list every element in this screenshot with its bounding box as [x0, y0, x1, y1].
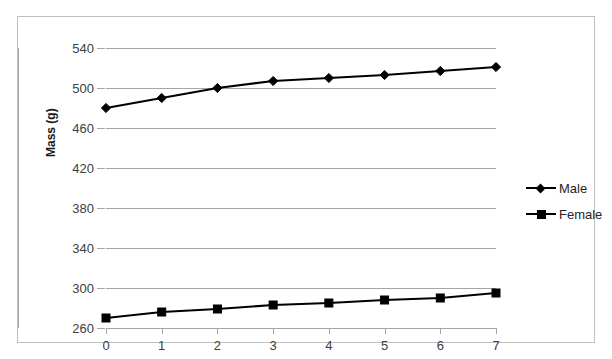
data-point-female — [492, 289, 500, 297]
data-point-male — [101, 103, 110, 112]
x-axis-label: 2 — [214, 338, 221, 353]
y-axis-title: Mass (g) — [44, 108, 58, 157]
data-point-female — [158, 308, 166, 316]
y-axis-tick — [97, 168, 105, 169]
y-axis-label: 340 — [72, 241, 94, 256]
y-axis-label: 420 — [72, 161, 94, 176]
y-axis-label: 460 — [72, 121, 94, 136]
y-axis-tick — [97, 208, 105, 209]
y-axis-tick — [97, 128, 105, 129]
y-axis-line — [18, 48, 19, 328]
legend-label: Male — [559, 181, 587, 196]
data-point-male — [213, 83, 222, 92]
y-axis-tick — [97, 48, 105, 49]
data-point-male — [324, 73, 333, 82]
y-axis-tick — [97, 288, 105, 289]
y-axis-tick — [97, 328, 105, 329]
data-point-female — [213, 305, 221, 313]
x-axis-label: 7 — [492, 338, 499, 353]
x-axis-label: 3 — [270, 338, 277, 353]
x-axis-label: 6 — [437, 338, 444, 353]
x-axis-label: 1 — [158, 338, 165, 353]
x-axis-label: 4 — [325, 338, 332, 353]
x-axis-tick — [329, 328, 330, 334]
x-axis-tick — [273, 328, 274, 334]
x-axis-tick — [162, 328, 163, 334]
x-axis-line — [106, 328, 496, 329]
data-point-male — [269, 76, 278, 85]
data-point-male — [491, 62, 500, 71]
x-axis-label: 5 — [381, 338, 388, 353]
x-axis-tick — [106, 328, 107, 334]
y-axis-label: 260 — [72, 321, 94, 336]
diamond-marker-icon — [526, 182, 556, 194]
y-axis-label: 380 — [72, 201, 94, 216]
data-point-male — [157, 93, 166, 102]
x-axis-tick — [496, 328, 497, 334]
y-axis-tick — [97, 248, 105, 249]
x-axis-tick — [440, 328, 441, 334]
legend-label: Female — [559, 207, 602, 222]
series-layer — [106, 48, 496, 328]
x-axis-label: 0 — [102, 338, 109, 353]
y-axis-label: 500 — [72, 81, 94, 96]
square-marker-icon — [526, 208, 556, 220]
legend-item-male[interactable]: Male — [526, 175, 612, 201]
legend-item-female[interactable]: Female — [526, 201, 612, 227]
x-axis-tick — [385, 328, 386, 334]
data-point-female — [381, 296, 389, 304]
data-point-female — [325, 299, 333, 307]
chart-frame: Mass (g) 260300340380420460500540 012345… — [17, 16, 595, 343]
data-point-male — [380, 70, 389, 79]
data-point-female — [102, 314, 110, 322]
data-point-male — [436, 66, 445, 75]
data-point-female — [436, 294, 444, 302]
y-axis-label: 300 — [72, 281, 94, 296]
y-axis-tick — [97, 88, 105, 89]
x-axis-tick — [217, 328, 218, 334]
plot-area: 260300340380420460500540 01234567 — [106, 48, 496, 328]
chart-legend: MaleFemale — [526, 175, 612, 227]
data-point-female — [269, 301, 277, 309]
y-axis-label: 540 — [72, 41, 94, 56]
